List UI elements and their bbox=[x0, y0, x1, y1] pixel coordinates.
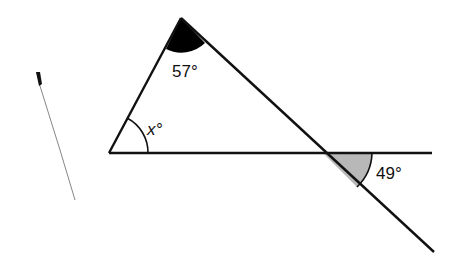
left-angle-label: x° bbox=[147, 120, 162, 140]
triangle-left-side bbox=[109, 18, 181, 153]
diagram-canvas: 57° x° 49° bbox=[0, 0, 450, 270]
triangle-figure bbox=[0, 0, 450, 270]
apex-angle-label: 57° bbox=[172, 62, 198, 82]
right-angle-label: 49° bbox=[376, 164, 402, 184]
stray-pen-mark bbox=[37, 73, 75, 200]
left-angle-arc bbox=[127, 118, 148, 153]
transversal-line bbox=[181, 18, 434, 252]
right-angle-fill bbox=[323, 153, 372, 187]
pen-blot bbox=[36, 72, 42, 86]
